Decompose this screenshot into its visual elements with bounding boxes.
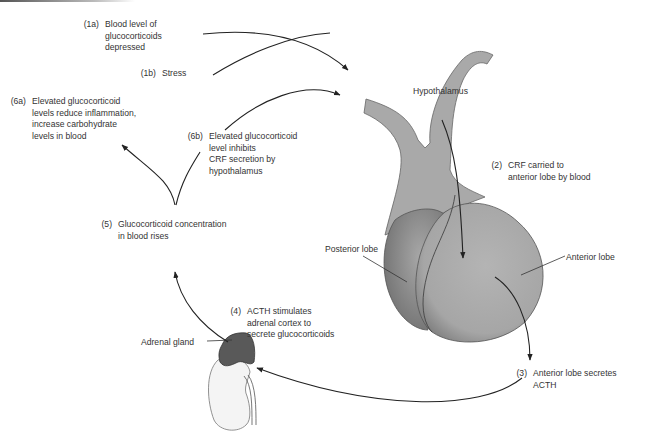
- posterior-lobe-label: Posterior lobe: [325, 244, 378, 256]
- step-3: (3) Anterior lobe secretesACTH: [501, 368, 617, 391]
- step-5: (5) Glucocorticoid concentrationin blood…: [86, 219, 226, 242]
- anterior-lobe-shape: [416, 203, 543, 342]
- anterior-lobe-label: Anterior lobe: [566, 252, 615, 264]
- arrow-1b-to-hypothalamus: [213, 33, 330, 75]
- step-6b: (6b) Elevated glucocorticoidlevel inhibi…: [177, 131, 297, 177]
- step-1b: (1b) Stress: [130, 68, 186, 80]
- adrenal-gland-label: Adrenal gland: [141, 337, 194, 349]
- step-4: (4) ACTH stimulatesadrenal cortex tosecr…: [215, 306, 334, 341]
- arrow-acth-to-adrenal: [257, 368, 522, 402]
- step-2: (2) CRF carried toanterior lobe by blood: [476, 160, 591, 183]
- arrow-6b-to-hypothalamus: [225, 90, 340, 130]
- step-1a: (1a) Blood level ofglucocorticoidsdepres…: [73, 19, 162, 54]
- kidney-shape: [208, 358, 250, 431]
- step-6a: (6a) Elevated glucocorticoidlevels reduc…: [0, 96, 136, 142]
- arrow-1a-to-hypothalamus: [203, 32, 348, 70]
- arrow-5-to-6a: [122, 145, 175, 205]
- adrenal-kidney-illustration: [208, 333, 256, 430]
- hypothalamus-label: Hypothalamus: [413, 86, 468, 98]
